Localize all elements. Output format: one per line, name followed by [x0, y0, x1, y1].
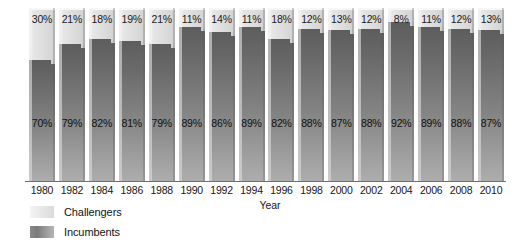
- bar-bevel-notch: [201, 27, 205, 31]
- bar-stack: [119, 8, 145, 181]
- bar-stack: [89, 8, 115, 181]
- x-tick-label: 2002: [356, 184, 386, 196]
- bar-column: 18%82%: [89, 8, 115, 181]
- bar-segment-incumbents: [179, 27, 205, 181]
- bar-column: 12%88%: [448, 8, 474, 181]
- bar-segment-challengers: [268, 8, 294, 39]
- legend-label-incumbents: Incumbents: [64, 226, 120, 238]
- bar-column: 21%79%: [149, 8, 175, 181]
- bar-stack: [268, 8, 294, 181]
- bar-column: 12%88%: [298, 8, 324, 181]
- bar-stack: [448, 8, 474, 181]
- bar-stack: [59, 8, 85, 181]
- bar-bevel-notch: [290, 39, 294, 43]
- bar-segment-incumbents: [119, 41, 145, 181]
- bar-segment-incumbents: [239, 27, 265, 181]
- bar-bevel-notch: [81, 44, 85, 48]
- x-tick-label: 2000: [326, 184, 356, 196]
- bar-bevel-notch: [470, 29, 474, 33]
- x-axis-tick-labels: 1980198219841986198819901992199419961998…: [27, 184, 506, 198]
- bar-column: 12%88%: [358, 8, 384, 181]
- bar-segment-incumbents: [328, 30, 354, 181]
- legend-label-challengers: Challengers: [64, 206, 122, 218]
- bar-segment-challengers: [239, 8, 265, 27]
- bar-stack: [328, 8, 354, 181]
- bar-bevel-notch: [500, 30, 504, 34]
- x-tick-label: 1990: [177, 184, 207, 196]
- bar-stack: [209, 8, 235, 181]
- x-tick-label: 2004: [386, 184, 416, 196]
- bar-bevel-notch: [141, 41, 145, 45]
- bar-column: 11%89%: [418, 8, 444, 181]
- bar-segment-challengers: [358, 8, 384, 29]
- bar-segment-challengers: [89, 8, 115, 39]
- bar-segment-incumbents: [358, 29, 384, 181]
- bar-segment-challengers: [29, 8, 55, 60]
- bar-column: 19%81%: [119, 8, 145, 181]
- bar-bevel-notch: [380, 29, 384, 33]
- legend-item-challengers: Challengers: [30, 203, 230, 220]
- bar-segment-incumbents: [388, 22, 414, 181]
- bar-stack: [29, 8, 55, 181]
- bar-column: 11%89%: [179, 8, 205, 181]
- x-tick-label: 2008: [446, 184, 476, 196]
- x-tick-label: 1980: [27, 184, 57, 196]
- bar-bevel-notch: [231, 32, 235, 36]
- bar-segment-incumbents: [209, 32, 235, 181]
- chart-legend: Challengers Incumbents: [30, 203, 230, 243]
- bar-column: 30%70%: [29, 8, 55, 181]
- x-tick-label: 2006: [416, 184, 446, 196]
- bar-bevel-notch: [111, 39, 115, 43]
- bar-stack: [478, 8, 504, 181]
- bar-stack: [149, 8, 175, 181]
- bar-segment-incumbents: [448, 29, 474, 181]
- bar-column: 8%92%: [388, 8, 414, 181]
- bar-bevel-notch: [171, 44, 175, 48]
- bar-bevel-notch: [320, 29, 324, 33]
- bar-bevel-notch: [440, 27, 444, 31]
- bar-segment-incumbents: [268, 39, 294, 181]
- bar-stack: [179, 8, 205, 181]
- bar-segment-challengers: [179, 8, 205, 27]
- bar-segment-incumbents: [149, 44, 175, 181]
- bar-column: 14%86%: [209, 8, 235, 181]
- bar-column: 13%87%: [328, 8, 354, 181]
- x-axis-title-text: Year: [259, 199, 280, 211]
- bar-bevel-notch: [350, 30, 354, 34]
- bar-column: 13%87%: [478, 8, 504, 181]
- bar-bevel-notch: [410, 22, 414, 26]
- bar-segment-challengers: [478, 8, 504, 30]
- challengers-swatch-icon: [30, 206, 54, 218]
- bar-segment-challengers: [418, 8, 444, 27]
- x-tick-label: 1994: [237, 184, 267, 196]
- x-axis-line: [25, 181, 506, 182]
- plot-area: 30%70%21%79%18%82%19%81%21%79%11%89%14%8…: [27, 8, 506, 181]
- bar-stack: [418, 8, 444, 181]
- x-tick-label: 1986: [117, 184, 147, 196]
- x-tick-label: 1992: [207, 184, 237, 196]
- bar-segment-challengers: [59, 8, 85, 44]
- incumbents-swatch-icon: [30, 226, 54, 238]
- x-tick-label: 1998: [296, 184, 326, 196]
- bar-segment-incumbents: [29, 60, 55, 181]
- x-tick-label: 1984: [87, 184, 117, 196]
- bar-segment-incumbents: [89, 39, 115, 181]
- stacked-bar-chart: 30%70%21%79%18%82%19%81%21%79%11%89%14%8…: [0, 0, 530, 248]
- bar-stack: [388, 8, 414, 181]
- bar-stack: [298, 8, 324, 181]
- x-tick-label: 1982: [57, 184, 87, 196]
- bar-column: 18%82%: [268, 8, 294, 181]
- bar-segment-challengers: [448, 8, 474, 29]
- bar-segment-incumbents: [59, 44, 85, 181]
- bar-segment-challengers: [149, 8, 175, 44]
- bar-segment-challengers: [388, 8, 414, 22]
- bar-column: 11%89%: [239, 8, 265, 181]
- bar-segment-challengers: [328, 8, 354, 30]
- bar-stack: [358, 8, 384, 181]
- bar-segment-challengers: [209, 8, 235, 32]
- bar-stack: [239, 8, 265, 181]
- bar-segment-incumbents: [478, 30, 504, 181]
- bar-column: 21%79%: [59, 8, 85, 181]
- x-tick-label: 2010: [476, 184, 506, 196]
- x-tick-label: 1988: [147, 184, 177, 196]
